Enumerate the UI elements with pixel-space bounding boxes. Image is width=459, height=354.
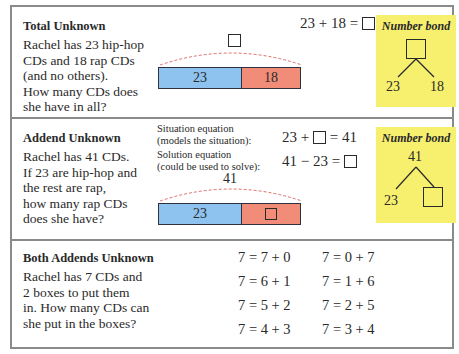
tape-part-hiphop: 23	[159, 204, 241, 224]
tape-diagram: 23 18	[158, 67, 301, 89]
unknown-box	[265, 208, 277, 220]
solution-label: Solution equation (could be used to solv…	[157, 149, 260, 173]
story-text: Rachel has 7 CDs and 2 boxes to put them…	[23, 269, 183, 331]
story-line: How many CDs does	[23, 84, 163, 100]
number-bond: Number bond 41 23	[376, 127, 456, 223]
equation-left: 7 = 7 + 0	[238, 249, 291, 266]
story-line: she have in all?	[23, 99, 163, 115]
tape-diagram: 23	[158, 203, 301, 225]
story-line: how many rap CDs	[23, 196, 173, 212]
row-addend-unknown: Addend Unknown Rachel has 41 CDs. If 23 …	[12, 117, 452, 239]
row-both-addends-unknown: Both Addends Unknown Rachel has 7 CDs an…	[12, 239, 452, 349]
row-title: Addend Unknown	[23, 131, 121, 146]
label-line: Situation equation	[157, 123, 252, 135]
story-line: 2 boxes to put them	[23, 285, 183, 301]
equation-right: 7 = 0 + 7	[322, 249, 375, 266]
story-line: Rachel has 7 CDs and	[23, 269, 183, 285]
row-title: Total Unknown	[23, 19, 106, 34]
row-total-unknown: Total Unknown Rachel has 23 hip-hop CDs …	[12, 7, 452, 117]
story-text: Rachel has 23 hip-hop CDs and 18 rap CDs…	[23, 37, 163, 115]
total-arc	[158, 183, 304, 203]
equation-right: 7 = 1 + 6	[322, 273, 375, 290]
equation-text: 23 +	[282, 129, 309, 145]
equation-right: 7 = 2 + 5	[322, 297, 375, 314]
tape-part-unknown	[241, 204, 300, 224]
story-line: Rachel has 23 hip-hop	[23, 37, 163, 53]
row-title: Both Addends Unknown	[23, 251, 154, 266]
story-text: Rachel has 41 CDs. If 23 are hip-hop and…	[23, 149, 173, 227]
equation-left: 7 = 4 + 3	[238, 321, 291, 338]
bond-left: 23	[384, 193, 398, 209]
equation-text: 41 − 23 =	[282, 153, 340, 169]
story-line: If 23 are hip-hop and	[23, 165, 173, 181]
story-line: (and no others).	[23, 68, 163, 84]
equation-text: = 41	[330, 129, 357, 145]
story-line: does she have?	[23, 211, 173, 227]
story-line: in. How many CDs can	[23, 300, 183, 316]
label-line: (models the situation):	[157, 135, 252, 147]
unknown-box	[362, 17, 375, 30]
bond-right: 18	[430, 79, 444, 95]
story-line: CDs and 18 rap CDs	[23, 53, 163, 69]
situation-equation: 23 + = 41	[282, 129, 357, 146]
unknown-box	[313, 131, 326, 144]
tape-part-rap: 18	[241, 68, 300, 88]
total-unknown-box	[228, 34, 241, 47]
bond-left: 23	[386, 79, 400, 95]
problem-types-table: Total Unknown Rachel has 23 hip-hop CDs …	[10, 5, 454, 349]
story-line: the rest are rap,	[23, 180, 173, 196]
label-line: (could be used to solve):	[157, 161, 260, 173]
equation-text: 23 + 18 =	[300, 15, 358, 31]
total-arc	[158, 47, 304, 67]
tape-part-hiphop: 23	[159, 68, 241, 88]
bond-right-box	[423, 187, 443, 207]
equation-left: 7 = 5 + 2	[238, 297, 291, 314]
situation-label: Situation equation (models the situation…	[157, 123, 252, 147]
number-bond: Number bond 23 18	[376, 15, 456, 107]
unknown-box	[344, 155, 357, 168]
equation-left: 7 = 6 + 1	[238, 273, 291, 290]
label-line: Solution equation	[157, 149, 260, 161]
total-equation: 23 + 18 =	[300, 15, 375, 32]
equation-right: 7 = 3 + 4	[322, 321, 375, 338]
story-line: Rachel has 41 CDs.	[23, 149, 173, 165]
solution-equation: 41 − 23 =	[282, 153, 357, 170]
story-line: she put in the boxes?	[23, 316, 183, 332]
